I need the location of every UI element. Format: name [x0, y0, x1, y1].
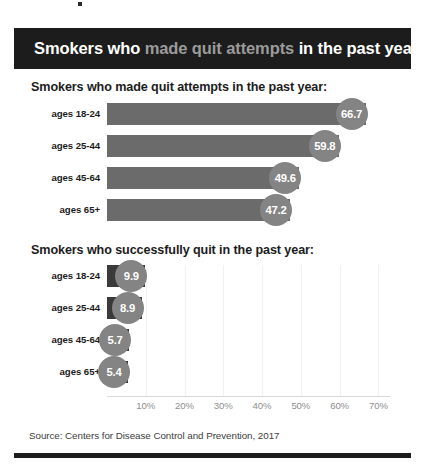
chart-quit-attempts: ages 18-2466.7ages 25-4459.8ages 45-6449…	[0, 103, 425, 231]
axis-tick-label: 60%	[330, 400, 349, 411]
value-bubble: 8.9	[112, 292, 144, 324]
chart-row: ages 65+5.4	[0, 361, 425, 393]
value-bubble: 5.7	[99, 324, 131, 356]
axis-tick-label: 20%	[175, 400, 194, 411]
chart-2-heading: Smokers who successfully quit in the pas…	[31, 243, 314, 257]
bar-track: 47.2	[107, 199, 425, 221]
axis-tick-label: 10%	[136, 400, 155, 411]
chart-successfully-quit: ages 18-249.9ages 25-448.9ages 45-645.7a…	[0, 265, 425, 393]
category-label: ages 18-24	[0, 265, 100, 287]
infographic-page: Smokers who made quit attempts in the pa…	[0, 0, 425, 473]
category-label: ages 18-24	[0, 103, 100, 125]
chart-row: ages 25-448.9	[0, 297, 425, 329]
value-bubble: 47.2	[260, 194, 292, 226]
axis-tick-label: 30%	[214, 400, 233, 411]
bar-track: 59.8	[107, 135, 425, 157]
banner-title: Smokers who made quit attempts in the pa…	[34, 39, 418, 58]
chart-row: ages 45-6449.6	[0, 167, 425, 199]
chart-row: ages 65+47.2	[0, 199, 425, 231]
banner-title-part1: Smokers who	[34, 39, 145, 57]
top-artifact-mark	[78, 2, 82, 6]
chart-1-heading: Smokers who made quit attempts in the pa…	[31, 80, 327, 94]
bar-track: 5.7	[107, 329, 425, 351]
title-banner: Smokers who made quit attempts in the pa…	[14, 28, 411, 69]
chart-row: ages 18-2466.7	[0, 103, 425, 135]
axis-tick-label: 40%	[253, 400, 272, 411]
x-axis-tick-labels: 10%20%30%40%50%60%70%	[107, 400, 407, 416]
value-bubble: 59.8	[309, 130, 341, 162]
chart-row: ages 18-249.9	[0, 265, 425, 297]
footer-bar	[14, 453, 411, 458]
banner-title-part3: in the past year	[294, 39, 418, 57]
chart-row: ages 45-645.7	[0, 329, 425, 361]
axis-tick-label: 50%	[291, 400, 310, 411]
x-axis-line	[107, 396, 390, 397]
category-label: ages 65+	[0, 361, 100, 383]
bar	[107, 135, 339, 157]
category-label: ages 45-64	[0, 167, 100, 189]
value-bubble: 49.6	[269, 162, 301, 194]
bar-track: 8.9	[107, 297, 425, 319]
value-bubble: 5.4	[98, 356, 130, 388]
banner-title-highlight: made quit attempts	[145, 39, 294, 57]
bar	[107, 103, 366, 125]
category-label: ages 45-64	[0, 329, 100, 351]
category-label: ages 65+	[0, 199, 100, 221]
chart-row: ages 25-4459.8	[0, 135, 425, 167]
axis-tick-label: 70%	[369, 400, 388, 411]
category-label: ages 25-44	[0, 297, 100, 319]
bar-track: 5.4	[107, 361, 425, 383]
value-bubble: 9.9	[115, 260, 147, 292]
source-note: Source: Centers for Disease Control and …	[29, 430, 279, 441]
category-label: ages 25-44	[0, 135, 100, 157]
bar-track: 66.7	[107, 103, 425, 125]
value-bubble: 66.7	[336, 98, 368, 130]
bar-track: 49.6	[107, 167, 425, 189]
bar-track: 9.9	[107, 265, 425, 287]
